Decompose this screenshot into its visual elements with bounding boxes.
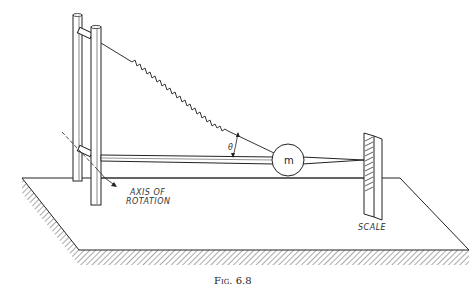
figure-6-8: θ m SCALE AXIS OF ROTATION F — [0, 0, 469, 295]
figure-caption: Fig. 6.8 — [214, 275, 252, 286]
horizontal-beam — [101, 155, 365, 178]
vertical-post-front — [91, 25, 101, 205]
base-platform — [22, 178, 469, 265]
mass-label: m — [284, 155, 294, 166]
angle-theta-marker: θ — [228, 132, 240, 158]
axis-label-line2: ROTATION — [126, 197, 170, 206]
spring — [101, 43, 274, 153]
angle-label: θ — [228, 143, 233, 152]
vertical-post-back — [73, 14, 82, 182]
axis-label-line1: AXIS OF — [129, 188, 165, 197]
scale-label: SCALE — [358, 223, 387, 232]
mass-ball: m — [272, 144, 304, 176]
